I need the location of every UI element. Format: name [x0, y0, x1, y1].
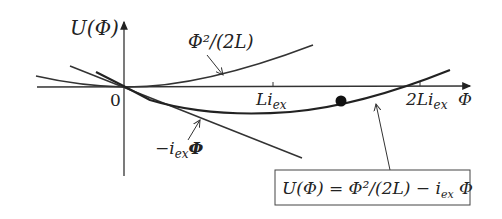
potential-energy-diagram: U(Φ) Φ 0 Liex 2Liex Φ²/(2L) −iexΦ U(Φ) =…	[0, 0, 502, 219]
quadratic-label: Φ²/(2L)	[188, 31, 254, 52]
linear-label: −iexΦ	[155, 138, 204, 161]
origin-label: 0	[110, 90, 121, 110]
total-pointer-arrow	[376, 104, 390, 170]
ball-marker	[336, 96, 347, 107]
y-axis-label: U(Φ)	[70, 16, 119, 40]
x-axis-label: Φ	[458, 89, 472, 109]
tick-label-li-ex: Liex	[255, 89, 287, 112]
linear-line	[70, 66, 302, 158]
linear-pointer-arrow	[188, 120, 200, 140]
tick-label-2li-ex: 2Liex	[405, 89, 448, 112]
quadratic-curve	[36, 45, 313, 87]
quadratic-pointer-arrow	[207, 55, 223, 75]
